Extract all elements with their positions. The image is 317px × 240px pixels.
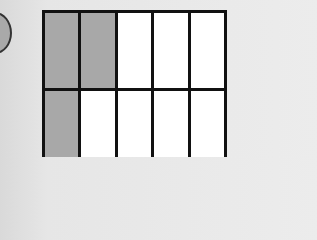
empty-cell-r1-c4 <box>154 13 187 88</box>
shaded-cell-r1-c1 <box>45 13 78 88</box>
fraction-grid <box>42 10 227 157</box>
shaded-cell-r1-c2 <box>81 13 114 88</box>
shaded-cell-r2-c1 <box>45 91 78 157</box>
empty-cell-r2-c2 <box>81 91 114 157</box>
empty-cell-r1-c5 <box>191 13 224 88</box>
empty-cell-r1-c3 <box>118 13 151 88</box>
empty-cell-r2-c4 <box>154 91 187 157</box>
gray-circle-shape <box>0 12 12 54</box>
empty-cell-r2-c3 <box>118 91 151 157</box>
empty-cell-r2-c5 <box>191 91 224 157</box>
